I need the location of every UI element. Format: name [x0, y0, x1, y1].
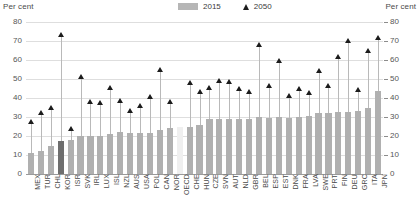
y-tick-label-left: 0	[18, 170, 26, 178]
chart-column	[304, 22, 314, 174]
data-marker-2050	[197, 89, 203, 94]
y-tick-label-left: 30	[13, 113, 26, 121]
x-axis-labels: MEXTURCHLKORISRSVKIRLLUXISLNZLAUSUSAPOLC…	[26, 174, 383, 218]
legend-bar-swatch-icon	[178, 3, 198, 10]
data-bar-2015	[97, 136, 103, 174]
data-bar-2015	[58, 141, 64, 174]
chart-column	[155, 22, 165, 174]
chart-column	[234, 22, 244, 174]
data-marker-2050	[345, 38, 351, 43]
data-marker-2050	[316, 68, 322, 73]
y-tick-mark	[384, 136, 388, 137]
data-marker-2050	[276, 58, 282, 63]
data-marker-2050	[127, 108, 133, 113]
x-axis-tick-label: CHE	[193, 174, 200, 189]
chart-column	[185, 22, 195, 174]
data-bar-2015	[365, 108, 371, 174]
y-axis-left: 01020304050607080	[0, 22, 26, 174]
x-axis-tick-label: PRT	[331, 174, 338, 188]
data-marker-2050	[256, 42, 262, 47]
data-marker-2050	[68, 126, 74, 131]
chart-column	[105, 22, 115, 174]
data-bar-2015	[117, 132, 123, 174]
data-bar-2015	[286, 118, 292, 174]
chart-column	[205, 22, 215, 174]
data-marker-2050	[266, 83, 272, 88]
chart-column	[314, 22, 324, 174]
x-axis-tick-label: NZL	[123, 174, 130, 188]
y-tick-mark	[384, 79, 388, 80]
data-bar-2015	[196, 125, 202, 174]
data-marker-2050	[48, 105, 54, 110]
x-axis-tick-label: USA	[143, 174, 150, 189]
chart-column	[26, 22, 36, 174]
data-bar-2015	[325, 113, 331, 174]
chart-column	[165, 22, 175, 174]
data-marker-2050	[58, 32, 64, 37]
data-bar-2015	[236, 119, 242, 174]
data-bar-2015	[187, 127, 193, 175]
y-tick-mark	[384, 41, 388, 42]
chart-column	[46, 22, 56, 174]
data-marker-2050	[206, 85, 212, 90]
x-axis-tick-label: EST	[282, 174, 289, 188]
x-axis-tick-label: CAN	[163, 174, 170, 189]
data-marker-2050	[246, 89, 252, 94]
chart-column	[175, 22, 185, 174]
data-marker-2050	[107, 85, 113, 90]
x-axis-tick-label: POL	[153, 174, 160, 189]
x-axis-tick-label: TUR	[44, 174, 51, 189]
y-tick-label-left: 20	[13, 132, 26, 140]
x-axis-tick-label: DEU	[351, 174, 358, 189]
data-bar-2015	[127, 133, 133, 174]
data-marker-2050	[236, 86, 242, 91]
data-marker-2050	[38, 110, 44, 115]
data-marker-2050	[187, 80, 193, 85]
data-marker-2050	[216, 78, 222, 83]
data-bar-2015	[147, 133, 153, 174]
data-marker-2050	[147, 94, 153, 99]
y-tick-label-left: 60	[13, 56, 26, 64]
chart-column	[56, 22, 66, 174]
data-bar-2015	[206, 119, 212, 174]
x-axis-tick-label: LVA	[312, 174, 319, 187]
data-marker-2050	[296, 86, 302, 91]
data-bar-2015	[157, 130, 163, 174]
data-bar-2015	[335, 112, 341, 174]
chart-column	[115, 22, 125, 174]
data-marker-2050	[375, 35, 381, 40]
chart-column	[264, 22, 274, 174]
chart-column	[333, 22, 343, 174]
chart-container: Per cent Per cent 2015 2050 010203040506…	[0, 0, 419, 218]
data-bar-2015	[355, 111, 361, 174]
data-bar-2015	[226, 119, 232, 174]
data-marker-2050	[117, 98, 123, 103]
y-tick-mark	[384, 117, 388, 118]
data-bar-2015	[87, 136, 93, 174]
data-bar-2015	[315, 113, 321, 174]
data-bar-2015	[28, 153, 34, 174]
chart-column	[244, 22, 254, 174]
legend-label-2050: 2050	[254, 2, 272, 11]
legend-label-2015: 2015	[203, 2, 221, 11]
x-axis-tick-label: AUS	[133, 174, 140, 189]
y-tick-label-left: 50	[13, 75, 26, 83]
chart-column	[36, 22, 46, 174]
data-bar-2015	[68, 140, 74, 174]
data-bar-2015	[177, 127, 183, 174]
data-bar-2015	[77, 136, 83, 174]
chart-column	[254, 22, 264, 174]
data-marker-2050	[226, 79, 232, 84]
x-axis-tick-label: DNK	[292, 174, 299, 189]
chart-column	[284, 22, 294, 174]
data-bar-2015	[276, 117, 282, 174]
x-axis-tick-label: LUX	[103, 174, 110, 188]
data-bar-2015	[107, 134, 113, 174]
chart-column	[224, 22, 234, 174]
legend-item-2015: 2015	[178, 2, 221, 11]
data-marker-2050	[355, 87, 361, 92]
x-axis-tick-label: SVN	[222, 174, 229, 189]
chart-column	[135, 22, 145, 174]
x-axis-tick-label: BEL	[262, 174, 269, 188]
data-bar-2015	[256, 117, 262, 174]
